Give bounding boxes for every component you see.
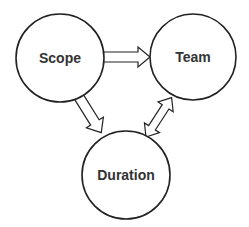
node-team: Team [150,14,236,100]
node-team-label: Team [175,49,211,65]
node-duration: Duration [82,131,170,219]
node-scope: Scope [16,14,104,102]
arrow-scope-to-team [103,47,150,67]
node-scope-label: Scope [39,50,81,66]
node-duration-label: Duration [97,167,155,183]
relationship-diagram: Scope Team Duration [0,0,249,227]
